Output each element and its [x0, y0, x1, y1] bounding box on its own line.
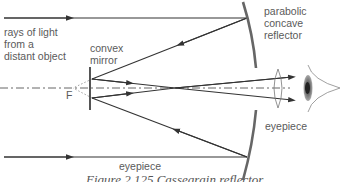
focus-label: F	[66, 89, 72, 101]
eyepiece-label-right: eyepiece	[265, 120, 307, 132]
concave-reflector-label: parabolic concave reflector	[264, 5, 307, 41]
rays-label: rays of light from a distant object	[4, 26, 66, 62]
eyepiece-label-bottom: eyepiece	[119, 160, 161, 172]
convex-mirror-label: convex mirror	[90, 42, 123, 66]
concave-reflector-lower	[243, 110, 256, 180]
figure-caption: Figure 2.125 Cassegrain reflector	[86, 172, 263, 182]
concave-reflector-upper	[243, 2, 256, 68]
eye-icon	[304, 65, 341, 112]
eyepiece-lens	[274, 69, 282, 108]
